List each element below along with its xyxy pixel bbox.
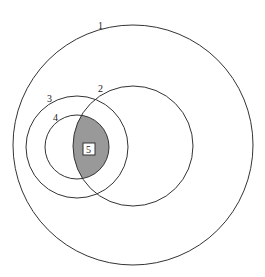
- label-circle-4: 4: [53, 112, 58, 123]
- label-circle-1: 1: [98, 20, 103, 31]
- label-region-5: 5: [86, 144, 91, 155]
- label-circle-3: 3: [47, 93, 52, 104]
- circle-1: [13, 25, 253, 265]
- label-circle-2: 2: [98, 83, 103, 94]
- venn-diagram: 1 2 3 4 5: [0, 0, 265, 277]
